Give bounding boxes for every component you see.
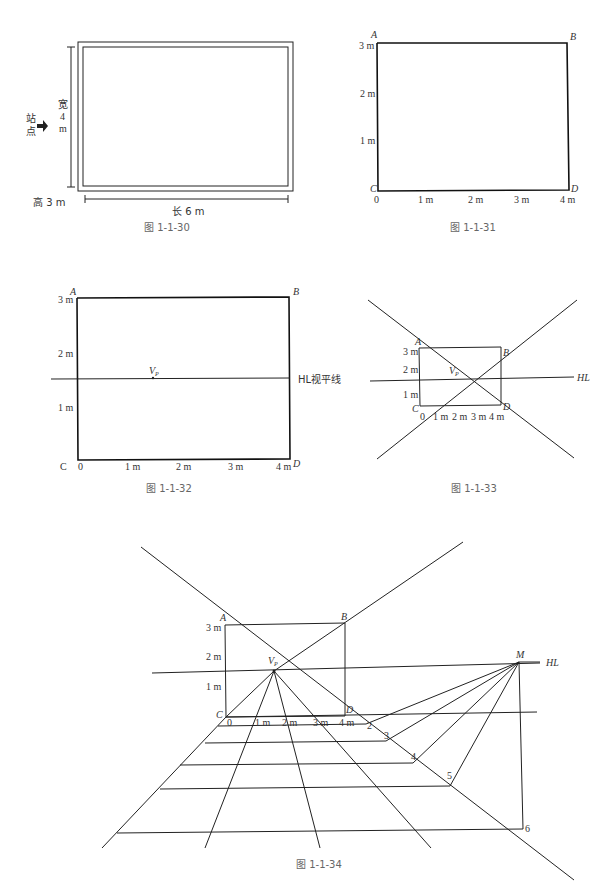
wall-rectangle (377, 43, 569, 191)
length-label: 长 6 m (172, 206, 204, 217)
y-tick-3m: 3 m (403, 346, 419, 357)
depth-mark-3: 3 (384, 730, 389, 741)
horizon-line (51, 378, 290, 379)
vp-ray (226, 671, 274, 717)
arrow-right-icon (37, 120, 48, 132)
figure-1-1-32: A B C D 3 m 2 m 1 m 0 1 m 2 m 3 m 4 m VP… (51, 286, 341, 494)
figure-caption: 图 1-1-34 (296, 859, 342, 870)
x-tick-0: 0 (420, 411, 425, 422)
corner-c-label: C (216, 709, 223, 720)
y-tick-3m: 3 m (206, 622, 222, 633)
corner-b-label: B (341, 611, 347, 622)
grid-line (205, 741, 386, 743)
y-tick-1m: 1 m (206, 681, 222, 692)
diagonal-b-c (377, 300, 577, 459)
x-tick-2m: 2 m (468, 194, 484, 205)
depth-mark-4: 4 (411, 751, 416, 762)
x-tick-1m: 1 m (418, 194, 434, 205)
vp-ray (274, 671, 431, 848)
corner-d-label: D (570, 183, 579, 194)
x-tick-1m: 1 m (255, 717, 271, 728)
depth-mark-2: 2 (367, 720, 372, 731)
x-tick-1m: 1 m (125, 461, 141, 472)
x-tick-4m: 4 m (339, 717, 355, 728)
wall-rectangle (419, 347, 501, 406)
room-inner-wall (83, 47, 288, 186)
measuring-point-label: M (515, 649, 525, 660)
corner-a-label: A (370, 29, 378, 40)
grid-line (180, 763, 413, 765)
room-outer-wall (78, 42, 293, 191)
x-tick-4m: 4 m (489, 411, 505, 422)
corner-b-label: B (503, 347, 509, 358)
station-point-label: 站 (26, 112, 36, 124)
figure-1-1-31: A B C D 3 m 2 m 1 m 0 1 m 2 m 3 m 4 m 图 … (359, 29, 579, 233)
y-tick-2m: 2 m (206, 651, 222, 662)
vanishing-point-label: VP (149, 365, 159, 377)
x-tick-3m: 3 m (228, 461, 244, 472)
x-tick-4m: 4 m (560, 194, 576, 205)
figure-caption: 图 1-1-31 (450, 222, 496, 233)
horizon-line-label: HL视平线 (298, 373, 341, 385)
x-tick-3m: 3 m (471, 411, 487, 422)
corner-b-label: B (293, 286, 299, 297)
y-tick-3m: 3 m (58, 294, 74, 305)
figure-caption: 图 1-1-33 (451, 483, 497, 494)
x-tick-3m: 3 m (514, 194, 530, 205)
x-tick-0: 0 (227, 717, 232, 728)
perspective-diagrams-page: 宽 4 m 站 点 高 3 m 长 6 m 图 1-1-30 A B C D 3… (0, 0, 615, 895)
vp-ray (205, 671, 274, 848)
width-label-value: 4 (60, 111, 65, 122)
grid-line (117, 829, 523, 833)
vanishing-point-dot (273, 670, 276, 673)
x-tick-0: 0 (78, 461, 83, 472)
corner-b-label: B (570, 31, 576, 42)
width-label: 宽 (58, 98, 68, 110)
y-tick-1m: 1 m (360, 135, 376, 146)
x-tick-4m: 4 m (276, 461, 292, 472)
x-tick-2m: 2 m (452, 411, 468, 422)
y-tick-1m: 1 m (403, 389, 419, 400)
vanishing-point-label: VP (268, 655, 278, 667)
vanishing-point-label: VP (449, 365, 459, 377)
figure-caption: 图 1-1-32 (146, 483, 192, 494)
depth-mark-6: 6 (525, 823, 530, 834)
m-vertical (519, 662, 523, 829)
diagonal-b-vp (274, 542, 463, 671)
horizon-line (152, 663, 540, 673)
width-label-unit: m (59, 123, 67, 134)
horizon-line (370, 377, 574, 381)
figure-1-1-30: 宽 4 m 站 点 高 3 m 长 6 m 图 1-1-30 (26, 42, 293, 233)
vanishing-point-dot (152, 377, 154, 379)
height-label: 高 3 m (33, 196, 65, 208)
x-tick-1m: 1 m (433, 411, 449, 422)
corner-d-label: D (292, 458, 301, 469)
x-tick-2m: 2 m (176, 461, 192, 472)
depth-mark-5: 5 (447, 770, 452, 781)
y-tick-2m: 2 m (360, 88, 376, 99)
corner-c-label: C (412, 403, 419, 414)
x-tick-2m: 2 m (282, 717, 298, 728)
y-tick-2m: 2 m (403, 364, 419, 375)
station-point-label-2: 点 (26, 126, 36, 137)
horizon-line-label: HL (576, 372, 590, 383)
corner-c-label: C (60, 461, 67, 472)
figure-1-1-34: A B C D 3 m 2 m 1 m 0 1 m 2 m 3 m 4 m VP… (102, 542, 574, 880)
figure-caption: 图 1-1-30 (144, 222, 190, 233)
y-tick-2m: 2 m (58, 348, 74, 359)
x-tick-3m: 3 m (313, 717, 329, 728)
floor-edge-left (102, 717, 226, 848)
y-tick-3m: 3 m (359, 40, 375, 51)
corner-c-label: C (370, 183, 377, 194)
x-tick-0: 0 (374, 194, 379, 205)
m-ray (386, 662, 519, 741)
m-ray (450, 662, 519, 786)
diagonal-a-d-extended (141, 547, 574, 880)
horizon-line-label: HL (545, 657, 559, 668)
m-ray (366, 662, 519, 724)
y-tick-1m: 1 m (58, 402, 74, 413)
figure-1-1-33: A B C D 3 m 2 m 1 m 0 1 m 2 m 3 m 4 m VP… (368, 300, 590, 494)
corner-d-label: D (345, 704, 354, 715)
